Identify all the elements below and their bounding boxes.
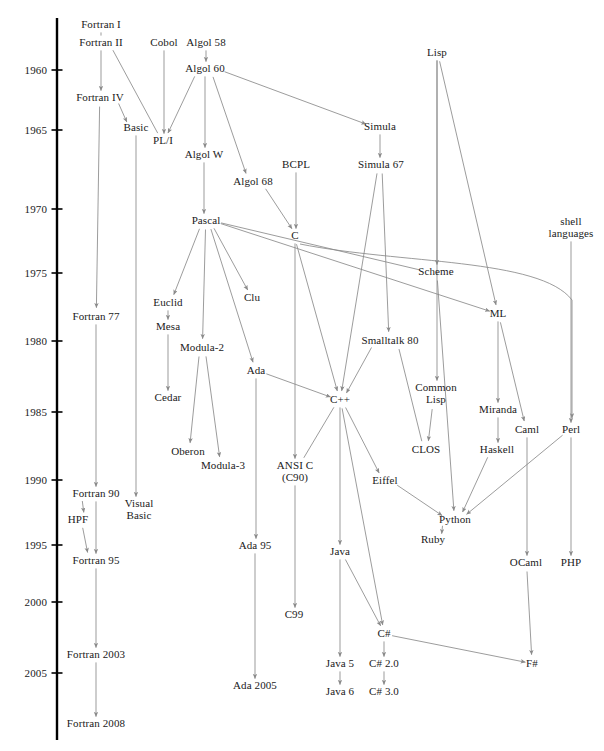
- node-modula3: Modula-3: [201, 460, 245, 472]
- edge-cpp-to-eiffel: [346, 408, 380, 473]
- node-c: C: [291, 230, 298, 242]
- edge-c-to-cpp: [297, 244, 338, 391]
- node-perl: Perl: [562, 424, 580, 436]
- node-miranda: Miranda: [479, 404, 517, 416]
- edge-java-to-csharp: [345, 560, 380, 626]
- year-label-1965: 1965: [25, 124, 47, 136]
- node-c99: C99: [285, 609, 304, 621]
- node-modula2: Modula-2: [180, 342, 224, 354]
- node-ml: ML: [490, 308, 507, 320]
- node-csharp30: C# 3.0: [369, 686, 399, 698]
- node-algol68: Algol 68: [233, 176, 273, 188]
- node-bcpl: BCPL: [282, 159, 310, 171]
- node-smalltalk80: Smalltalk 80: [361, 335, 418, 347]
- node-simula: Simula: [364, 121, 396, 133]
- node-ada95: Ada 95: [239, 540, 272, 552]
- node-hpf: HPF: [68, 514, 88, 526]
- edge-modula2-to-oberon: [190, 357, 199, 443]
- year-label-2005: 2005: [25, 667, 47, 679]
- year-label-1995: 1995: [25, 539, 47, 551]
- edge-modula2-to-modula3: [206, 356, 220, 456]
- edge-commonlisp-to-clos: [428, 409, 432, 441]
- node-caml: Caml: [515, 424, 539, 436]
- node-ansic: ANSI C (C90): [277, 460, 313, 484]
- node-mesa: Mesa: [156, 321, 180, 333]
- edge-pascal-to-clu: [214, 228, 248, 290]
- edge-eiffel-to-python: [397, 485, 442, 515]
- node-csharp: C#: [377, 628, 390, 640]
- node-algol60: Algol 60: [185, 63, 225, 75]
- node-fortran1: Fortran I: [81, 19, 121, 31]
- node-cedar: Cedar: [155, 392, 182, 404]
- year-label-2000: 2000: [25, 596, 47, 608]
- node-haskell: Haskell: [480, 444, 514, 456]
- edge-cpp-to-ansic: [304, 407, 334, 458]
- edge-algol60-to-simula: [225, 72, 367, 124]
- edge-ocaml-to-fsharp: [527, 572, 532, 655]
- year-label-1985: 1985: [25, 406, 47, 418]
- year-label-1990: 1990: [25, 474, 47, 486]
- node-python: Python: [439, 514, 471, 526]
- node-scheme: Scheme: [418, 266, 453, 278]
- node-visualbasic: Visual Basic: [125, 498, 154, 522]
- node-csharp20: C# 2.0: [369, 658, 399, 670]
- node-fortran77: Fortran 77: [72, 311, 119, 323]
- node-ada2005: Ada 2005: [233, 680, 277, 692]
- node-fortran2008: Fortran 2008: [67, 718, 125, 730]
- node-cobol: Cobol: [150, 37, 177, 49]
- node-fortran2003: Fortran 2003: [67, 649, 125, 661]
- node-java: Java: [330, 546, 350, 558]
- edge-csharp-to-fsharp: [392, 636, 525, 663]
- timeline-axis: [52, 18, 63, 740]
- node-commonlisp: Common Lisp: [415, 382, 457, 406]
- node-java5: Java 5: [326, 658, 354, 670]
- edge-simula67-to-smalltalk80: [382, 174, 389, 332]
- edge-fortran4-to-basic: [119, 104, 127, 123]
- year-label-1975: 1975: [25, 267, 47, 279]
- node-basic: Basic: [124, 122, 149, 134]
- node-cpp: C++: [330, 394, 350, 406]
- node-ada: Ada: [247, 365, 266, 377]
- node-simula67: Simula 67: [358, 159, 404, 171]
- edge-simula67-to-cpp: [342, 173, 377, 390]
- node-java6: Java 6: [326, 686, 354, 698]
- edge-pascal-to-scheme: [221, 223, 420, 270]
- node-oberon: Oberon: [171, 446, 205, 458]
- node-clu: Clu: [244, 292, 260, 304]
- year-label-1970: 1970: [25, 203, 47, 215]
- year-label-1980: 1980: [25, 335, 47, 347]
- node-shell: shell languages: [549, 216, 594, 240]
- node-fsharp: F#: [526, 658, 538, 670]
- node-php: PHP: [561, 557, 581, 569]
- node-ocaml: OCaml: [510, 557, 542, 569]
- node-pascal: Pascal: [192, 215, 221, 227]
- node-fortran90: Fortran 90: [72, 488, 119, 500]
- language-genealogy-diagram: Fortran IFortran IICobolAlgol 58Algol 60…: [0, 0, 604, 751]
- node-fortran95: Fortran 95: [72, 555, 119, 567]
- edge-hpf-to-fortran95: [83, 528, 88, 553]
- edge-pascal-to-modula2: [203, 230, 206, 339]
- node-lisp: Lisp: [427, 47, 447, 59]
- edge-fortran4-to-fortran77: [96, 107, 99, 308]
- node-clos: CLOS: [412, 444, 441, 456]
- node-pli: PL/I: [153, 135, 173, 147]
- year-label-1960: 1960: [25, 64, 47, 76]
- node-fortran4: Fortran IV: [76, 92, 124, 104]
- node-euclid: Euclid: [153, 297, 182, 309]
- node-ruby: Ruby: [421, 534, 445, 546]
- edge-algol60-to-pli: [168, 76, 195, 133]
- edge-haskell-to-python: [463, 457, 488, 512]
- edge-fortran90-to-hpf: [82, 501, 84, 512]
- edge-smalltalk80-to-cpp: [347, 348, 372, 393]
- node-fortran2: Fortran II: [79, 37, 122, 49]
- node-eiffel: Eiffel: [372, 475, 397, 487]
- edge-ada-to-cpp: [266, 374, 330, 397]
- edge-algol68-to-c: [266, 189, 292, 229]
- edge-pascal-to-euclid: [174, 229, 200, 295]
- node-algolw: Algol W: [185, 149, 224, 161]
- genealogy-edges-layer: [0, 0, 604, 751]
- node-algol58: Algol 58: [186, 37, 226, 49]
